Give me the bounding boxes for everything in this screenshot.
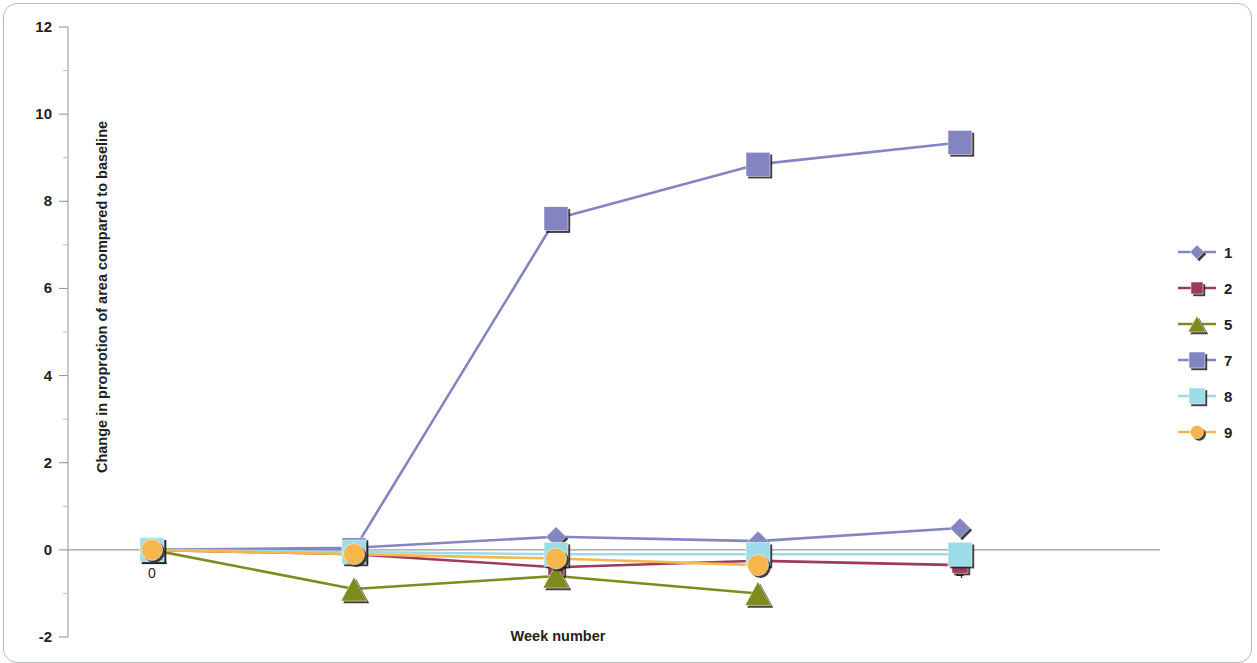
y-axis-tick-label: 12: [35, 18, 52, 35]
legend-label-2: 2: [1224, 280, 1232, 297]
legend-label-8: 8: [1224, 388, 1232, 405]
legend-label-1: 1: [1224, 244, 1232, 261]
legend-item-7[interactable]: 7: [1178, 352, 1232, 370]
y-axis-tick-label: 2: [44, 454, 52, 471]
series-7-markers: [140, 130, 974, 564]
legend-marker-9: [1190, 425, 1203, 438]
y-axis-tick-label: 0: [44, 541, 52, 558]
series-9-point: [545, 548, 566, 569]
legend-item-2[interactable]: 2: [1178, 280, 1232, 297]
y-axis-title: Change in proprotion of area compared to…: [94, 121, 110, 473]
series-9-markers: [141, 539, 770, 578]
series-7: [152, 142, 960, 549]
series-7-point: [544, 207, 568, 231]
legend-item-5[interactable]: 5: [1178, 316, 1232, 334]
y-axis-tick-label: 10: [35, 105, 52, 122]
series-layer: [139, 130, 974, 607]
y-axis-tick-label: 6: [44, 279, 52, 296]
series-8-point: [948, 542, 972, 566]
series-9-point: [747, 555, 768, 576]
legend-marker-8: [1189, 388, 1205, 404]
series-7-point: [746, 152, 770, 176]
x-axis-tick-label: 0: [148, 565, 156, 581]
legend-label-5: 5: [1224, 316, 1232, 333]
legend-marker-2: [1191, 282, 1203, 294]
legend-item-1[interactable]: 1: [1178, 244, 1232, 261]
series-9-point: [343, 544, 364, 565]
legend-item-9[interactable]: 9: [1178, 424, 1232, 441]
legend-label-9: 9: [1224, 424, 1232, 441]
y-axis-tick-label: -2: [39, 628, 52, 645]
y-axis-tick-label: 4: [44, 367, 53, 384]
y-axis-tick-label: 8: [44, 192, 52, 209]
series-9-point: [141, 539, 162, 560]
series-7-line: [152, 142, 960, 549]
series-7-point: [948, 130, 972, 154]
legend-marker-7: [1189, 352, 1205, 368]
x-axis-title: Week number: [511, 628, 606, 644]
legend-label-7: 7: [1224, 352, 1232, 369]
chart-legend: 125789: [1178, 244, 1232, 441]
legend-item-8[interactable]: 8: [1178, 388, 1232, 406]
